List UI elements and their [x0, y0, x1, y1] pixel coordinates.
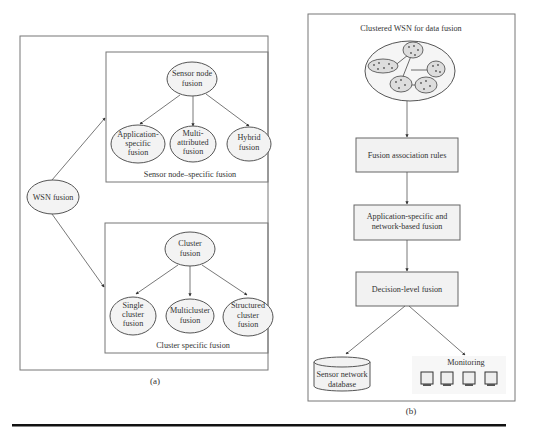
svg-text:Single: Single: [123, 301, 144, 310]
arrow-sensor-to-app: [140, 95, 180, 124]
svg-text:Hybrid: Hybrid: [237, 133, 260, 142]
hybrid-fusion-node: Hybrid fusion: [227, 127, 271, 161]
monitor-icon: [421, 372, 433, 386]
svg-text:specific: specific: [125, 139, 151, 148]
svg-text:database: database: [328, 380, 357, 389]
sensor-node-fusion-node: Sensor node fusion: [167, 62, 217, 96]
diagram-canvas: WSN fusion Sensor node fusion Applicatio…: [0, 0, 536, 437]
svg-text:Sensor node: Sensor node: [172, 69, 213, 78]
monitoring-label: Monitoring: [447, 358, 484, 367]
structured-cluster-fusion-node: Structured cluster fusion: [223, 298, 273, 336]
cluster-fusion-node: Cluster fusion: [165, 232, 215, 266]
wsn-fusion-node: WSN fusion: [27, 180, 79, 214]
clustered-wsn-icon: [365, 41, 455, 101]
svg-text:fusion: fusion: [180, 316, 200, 325]
svg-text:Application-: Application-: [117, 130, 159, 139]
monitoring-group: Monitoring: [412, 356, 506, 394]
panel-b: Clustered WSN for data fusion F: [308, 14, 515, 416]
svg-text:network-based fusion: network-based fusion: [372, 222, 443, 231]
svg-text:Multicluster: Multicluster: [170, 306, 210, 315]
monitor-icon: [463, 372, 475, 386]
svg-text:cluster: cluster: [237, 311, 259, 320]
arrow-decision-to-monitoring: [409, 306, 465, 355]
svg-text:fusion: fusion: [238, 320, 258, 329]
caption-a: (a): [150, 376, 160, 386]
panel-b-title: Clustered WSN for data fusion: [360, 24, 461, 33]
step-decision-level-fusion: Decision-level fusion: [356, 272, 458, 306]
single-cluster-fusion-node: Single cluster fusion: [110, 297, 156, 335]
sensor-group-title: Sensor node–specific fusion: [144, 170, 236, 179]
application-specific-fusion-node: Application- specific fusion: [111, 125, 165, 163]
svg-text:Cluster: Cluster: [178, 239, 202, 248]
arrow-sensor-to-hybrid: [206, 94, 249, 126]
svg-text:Structured: Structured: [231, 301, 265, 310]
svg-text:Sensor network: Sensor network: [316, 370, 368, 379]
svg-text:fusion: fusion: [128, 148, 148, 157]
multicluster-fusion-node: Multicluster fusion: [166, 299, 214, 333]
cluster-group-title: Cluster specific fusion: [156, 341, 230, 350]
svg-text:Multi-: Multi-: [183, 129, 204, 138]
svg-text:fusion: fusion: [239, 143, 259, 152]
svg-text:fusion: fusion: [123, 319, 143, 328]
multi-attributed-fusion-node: Multi- attributed fusion: [170, 126, 216, 162]
sensor-network-database: Sensor network database: [314, 357, 370, 391]
monitor-icon: [441, 372, 453, 386]
svg-text:Application-specific and: Application-specific and: [367, 212, 448, 221]
caption-b: (b): [406, 406, 417, 416]
arrow-cluster-to-single: [136, 265, 178, 294]
arrow-wsn-to-cluster: [52, 214, 104, 287]
svg-text:fusion: fusion: [183, 147, 203, 156]
arrow-cluster-to-structured: [202, 265, 247, 295]
arrow-decision-to-db: [346, 306, 405, 354]
step-application-network-fusion: Application-specific and network-based f…: [354, 205, 460, 240]
panel-a: WSN fusion Sensor node fusion Applicatio…: [20, 36, 273, 386]
step-fusion-association-rules: Fusion association rules: [356, 138, 458, 172]
svg-text:Fusion association rules: Fusion association rules: [368, 151, 447, 160]
svg-text:Decision-level fusion: Decision-level fusion: [372, 285, 442, 294]
svg-text:fusion: fusion: [180, 249, 200, 258]
svg-text:attributed: attributed: [177, 138, 208, 147]
arrow-wsn-to-sensor: [52, 118, 105, 180]
monitor-icon: [485, 372, 497, 386]
svg-text:fusion: fusion: [182, 79, 202, 88]
bottom-rule: [12, 424, 506, 427]
wsn-fusion-label: WSN fusion: [33, 193, 74, 202]
svg-text:cluster: cluster: [122, 310, 144, 319]
